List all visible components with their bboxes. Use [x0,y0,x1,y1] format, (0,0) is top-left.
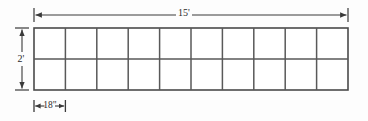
dimension-label-overall-height: 2' [18,53,25,64]
dimension-cell-width: 18" [34,100,65,112]
dimension-label-cell-width: 18" [43,100,57,110]
dimension-label-overall-width: 15' [178,7,190,18]
diagram-canvas: 15' 2' 18" [0,0,368,121]
panel-grid [34,28,348,90]
dimension-overall-width: 15' [34,7,348,22]
dimension-diagram: 15' 2' 18" [0,0,368,121]
dimension-overall-height: 2' [15,28,29,90]
